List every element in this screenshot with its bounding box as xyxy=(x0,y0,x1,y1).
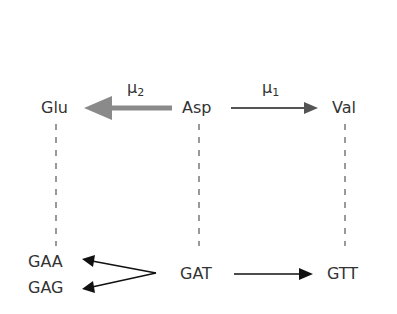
codon-gag: GAG xyxy=(28,280,63,296)
mu1-arrow xyxy=(231,102,318,114)
mu-symbol: μ xyxy=(262,78,272,97)
mu-subscript: 2 xyxy=(137,86,144,99)
gat-to-gaa-gag-arrows xyxy=(82,255,156,293)
mu1-label: μ1 xyxy=(262,80,279,98)
amino-acid-glu: Glu xyxy=(41,100,68,116)
mu2-label: μ2 xyxy=(127,80,144,98)
mu-subscript: 1 xyxy=(272,86,279,99)
mu2-arrow xyxy=(84,96,172,120)
codon-gtt: GTT xyxy=(327,266,358,282)
mu-symbol: μ xyxy=(127,78,137,97)
amino-acid-val: Val xyxy=(332,100,356,116)
gat-to-gtt-arrow xyxy=(234,268,313,280)
codon-gat: GAT xyxy=(180,266,212,282)
codon-gaa: GAA xyxy=(28,254,63,270)
amino-acid-asp: Asp xyxy=(182,100,211,116)
